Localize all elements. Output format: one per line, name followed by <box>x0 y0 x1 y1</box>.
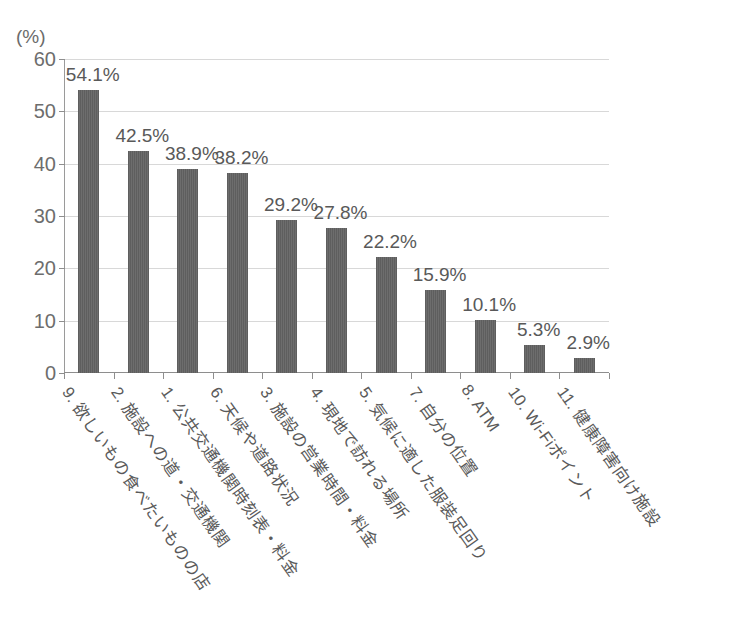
bar-value-label: 38.9% <box>165 143 219 165</box>
gridline <box>64 59 609 60</box>
bar <box>128 151 149 373</box>
x-axis-tick-mark <box>510 373 511 379</box>
y-axis-unit-label: (%) <box>16 26 46 48</box>
x-axis-tick-mark <box>262 373 263 379</box>
bar-value-label: 2.9% <box>567 332 610 354</box>
y-axis-tick-mark <box>59 216 65 217</box>
bar-value-label: 38.2% <box>214 147 268 169</box>
y-axis-tick-label: 20 <box>34 257 56 280</box>
bar <box>177 169 198 373</box>
bar <box>524 345 545 373</box>
x-axis-tick-mark <box>559 373 560 379</box>
x-axis-tick-mark <box>163 373 164 379</box>
y-axis-tick-label: 40 <box>34 152 56 175</box>
bar <box>276 220 297 373</box>
bar <box>425 290 446 373</box>
bar-value-label: 5.3% <box>517 319 560 341</box>
x-axis-tick-mark <box>114 373 115 379</box>
bar <box>227 173 248 373</box>
y-axis-tick-mark <box>59 164 65 165</box>
y-axis-tick-label: 30 <box>34 205 56 228</box>
bar <box>475 320 496 373</box>
bar-chart: (%) 0102030405060 54.1%42.5%38.9%38.2%29… <box>0 0 752 627</box>
bar <box>574 358 595 373</box>
gridline <box>64 111 609 112</box>
x-axis-tick-mark <box>609 373 610 379</box>
plot-area: 54.1%42.5%38.9%38.2%29.2%27.8%22.2%15.9%… <box>64 59 609 373</box>
y-axis-tick-label: 50 <box>34 100 56 123</box>
bar-value-label: 54.1% <box>66 64 120 86</box>
bar-value-label: 22.2% <box>363 231 417 253</box>
x-axis-category-labels: 9. 欲しいもの食べたいものの店2. 施設への道・交通機関1. 公共交通機関時刻… <box>64 381 752 627</box>
x-axis-category-label: 8. ATM <box>458 381 504 435</box>
y-axis-tick-label: 0 <box>45 362 56 385</box>
bar-value-label: 27.8% <box>314 202 368 224</box>
bar <box>326 228 347 373</box>
x-axis-tick-mark <box>361 373 362 379</box>
x-axis-tick-mark <box>213 373 214 379</box>
x-axis-tick-mark <box>312 373 313 379</box>
bar-value-label: 10.1% <box>462 294 516 316</box>
y-axis-tick-mark <box>59 111 65 112</box>
bar-value-label: 42.5% <box>115 125 169 147</box>
bar <box>78 90 99 373</box>
y-axis-tick-mark <box>59 59 65 60</box>
x-axis-tick-mark <box>411 373 412 379</box>
y-axis-tick-label: 10 <box>34 309 56 332</box>
bar-value-label: 15.9% <box>413 264 467 286</box>
y-axis-tick-mark <box>59 321 65 322</box>
y-axis-tick-mark <box>59 268 65 269</box>
y-axis-tick-labels: 0102030405060 <box>8 59 56 373</box>
y-axis-tick-label: 60 <box>34 48 56 71</box>
bar-value-label: 29.2% <box>264 194 318 216</box>
bar <box>376 257 397 373</box>
x-axis-tick-mark <box>460 373 461 379</box>
x-axis-tick-mark <box>64 373 65 379</box>
